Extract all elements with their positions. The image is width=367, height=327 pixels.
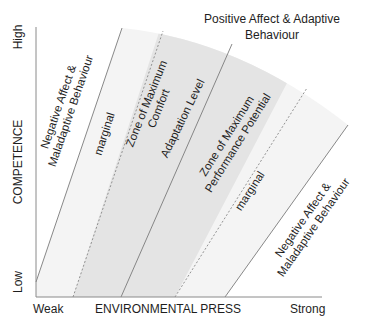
x-axis-title: ENVIRONMENTAL PRESS <box>95 302 241 316</box>
x-axis-weak-label: Weak <box>33 302 64 316</box>
y-axis-high-label: High <box>11 25 25 50</box>
y-axis-low-label: Low <box>11 271 25 293</box>
y-axis-title: COMPETENCE <box>11 120 25 205</box>
positive-affect-label-line2: Behaviour <box>245 28 299 42</box>
x-axis-strong-label: Strong <box>290 302 325 316</box>
positive-affect-label-line1: Positive Affect & Adaptive <box>204 12 340 26</box>
ecological-model-diagram: High COMPETENCE Low Weak ENVIRONMENTAL P… <box>0 0 367 327</box>
